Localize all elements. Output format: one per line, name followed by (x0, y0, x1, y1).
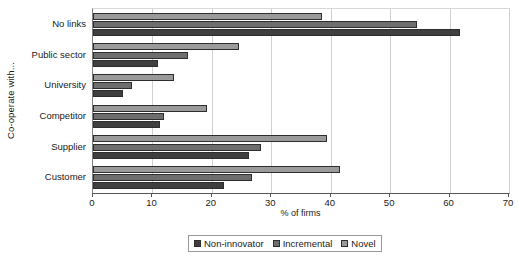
category-label: Customer (18, 161, 90, 192)
bar (93, 166, 340, 173)
bar-row (93, 113, 509, 120)
bar-row (93, 82, 509, 89)
bar (93, 174, 252, 181)
gridline (509, 9, 510, 193)
x-tick-label: 20 (206, 197, 217, 208)
legend-swatch (194, 240, 201, 247)
bar (93, 144, 261, 151)
bar-row (93, 90, 509, 97)
legend-item[interactable]: Novel (341, 238, 375, 249)
x-axis-title: % of firms (92, 208, 509, 218)
x-tick-label: 50 (384, 197, 395, 208)
x-tick-label: 0 (89, 197, 94, 208)
x-tick-label: 60 (443, 197, 454, 208)
category-label: Supplier (18, 131, 90, 162)
bar (93, 105, 207, 112)
bar-groups (93, 9, 509, 193)
category-label: Public sector (18, 39, 90, 70)
bar-row (93, 121, 509, 128)
bar-row (93, 74, 509, 81)
bar (93, 90, 123, 97)
category-label: No links (18, 8, 90, 39)
bar-group (93, 9, 509, 40)
chart-legend: Non-innovatorIncrementalNovel (188, 235, 382, 252)
x-tick-label: 10 (146, 197, 157, 208)
legend-swatch (273, 240, 280, 247)
bar-row (93, 182, 509, 189)
legend-swatch (341, 240, 348, 247)
bar-row (93, 29, 509, 36)
legend-label: Novel (351, 238, 375, 249)
plot-area (92, 8, 510, 194)
category-label: University (18, 69, 90, 100)
legend-item[interactable]: Incremental (273, 238, 333, 249)
bar (93, 135, 327, 142)
y-axis-title-label: Co-operate with... (5, 62, 16, 139)
bar (93, 52, 188, 59)
bar (93, 74, 174, 81)
bar-group (93, 70, 509, 101)
bar-row (93, 21, 509, 28)
x-tick-label: 30 (265, 197, 276, 208)
bar-row (93, 13, 509, 20)
bar-group (93, 40, 509, 71)
bar-row (93, 135, 509, 142)
bar (93, 21, 417, 28)
bar (93, 121, 160, 128)
bar-row (93, 144, 509, 151)
bar (93, 60, 158, 67)
x-axis-ticks: 010203040506070 (92, 193, 509, 207)
x-tick-label: 40 (324, 197, 335, 208)
bar-chart: Co-operate with... No linksPublic sector… (0, 0, 519, 264)
bar-group (93, 132, 509, 163)
bar-row (93, 166, 509, 173)
legend-label: Non-innovator (204, 238, 264, 249)
bar-group (93, 162, 509, 193)
bar-row (93, 174, 509, 181)
bar (93, 13, 322, 20)
x-tick-label: 70 (503, 197, 514, 208)
bar-row (93, 105, 509, 112)
legend-label: Incremental (283, 238, 333, 249)
bar (93, 113, 164, 120)
category-label: Competitor (18, 100, 90, 131)
bar-group (93, 101, 509, 132)
bar-row (93, 43, 509, 50)
bar-row (93, 152, 509, 159)
y-axis-title: Co-operate with... (0, 0, 20, 200)
legend-item[interactable]: Non-innovator (194, 238, 264, 249)
bar (93, 29, 460, 36)
bar (93, 152, 249, 159)
category-axis-labels: No linksPublic sectorUniversityCompetito… (18, 8, 90, 192)
bar (93, 182, 224, 189)
bar-row (93, 52, 509, 59)
bar (93, 82, 132, 89)
bar-row (93, 60, 509, 67)
bar (93, 43, 239, 50)
